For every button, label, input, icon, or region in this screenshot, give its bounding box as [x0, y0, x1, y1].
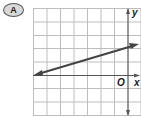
grid: [33, 8, 141, 116]
x-axis-label: x: [133, 77, 140, 88]
coordinate-graph: y x O: [0, 0, 141, 117]
origin-label: O: [117, 77, 125, 88]
plotted-line: [33, 43, 139, 76]
y-axis-label: y: [131, 7, 138, 18]
